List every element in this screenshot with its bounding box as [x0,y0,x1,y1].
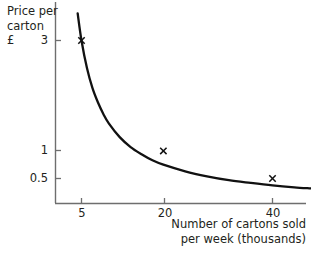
x-tick-label-20: 20 [150,207,180,219]
y-axis-title-line-1: Price per [7,4,58,18]
y-axis-title-line-2: carton [7,19,44,33]
data-point-markers [78,37,275,181]
data-point-marker [269,175,275,181]
demand-curve-line [78,13,311,188]
x-axis-title-line-2: per week (thousands) [181,232,306,246]
x-axis-title-line-1: Number of cartons sold [171,217,306,231]
y-tick-label-1: 1 [8,144,48,156]
x-tick-label-5: 5 [67,207,97,219]
x-axis-title: Number of cartons soldper week (thousand… [150,217,306,246]
y-tick-label-0-5: 0.5 [8,172,48,184]
y-tick-label-3: 3 [8,34,48,46]
x-tick-label-40: 40 [258,207,288,219]
data-point-marker [160,148,166,154]
demand-curve-chart: Price percarton£ Number of cartons soldp… [0,0,311,257]
